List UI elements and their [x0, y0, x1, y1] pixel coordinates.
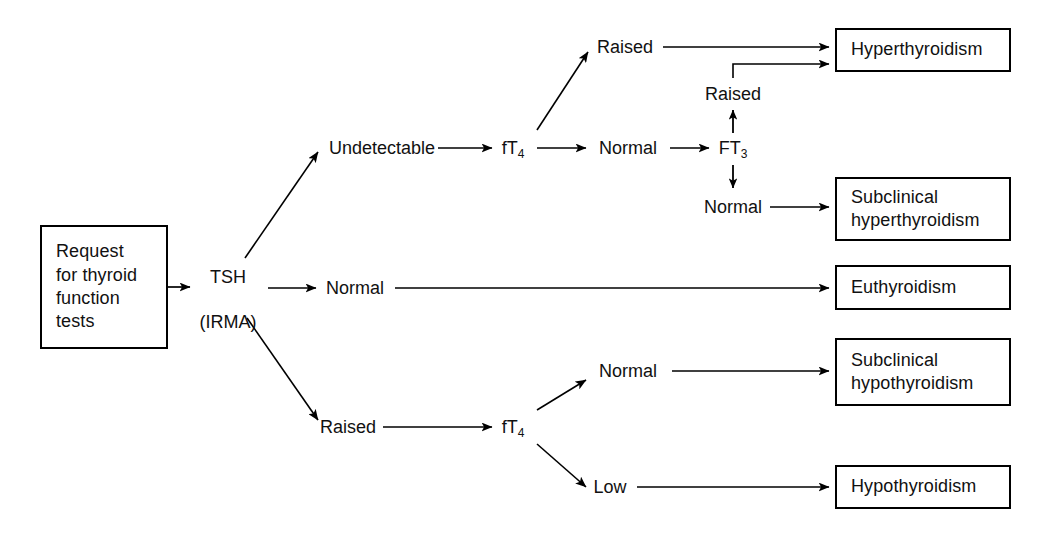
tsh-undetectable-label: Undetectable — [329, 138, 435, 158]
node-ft3[interactable]: FT3 — [719, 139, 748, 157]
outcome-hyperthyroidism-label: Hyperthyroidism — [851, 38, 983, 61]
edge-ft4-to-raised — [537, 52, 588, 130]
ft4-normal-label: Normal — [599, 138, 657, 158]
node-ft4-upper[interactable]: fT4 — [502, 139, 525, 157]
node-outcome-subclinical-hypothyroidism[interactable]: Subclinical hypothyroidism — [835, 338, 1011, 406]
tsh-raised-label: Raised — [320, 417, 376, 437]
request-box-label: Request for thyroid function tests — [56, 240, 137, 334]
node-ft3-raised[interactable]: Raised — [705, 85, 761, 103]
node-ft4-raised[interactable]: Raised — [597, 38, 653, 56]
ft3-raised-label: Raised — [705, 84, 761, 104]
node-outcome-euthyroidism[interactable]: Euthyroidism — [835, 265, 1011, 310]
node-tsh-undetectable[interactable]: Undetectable — [329, 139, 435, 157]
outcome-subclinical-hyperthyroidism-label: Subclinical hyperthyroidism — [851, 186, 980, 233]
ft4-lower-normal-label: Normal — [599, 361, 657, 381]
edge-ft3raised-to-hyperthyroidism — [733, 64, 829, 78]
node-ft4-normal[interactable]: Normal — [599, 139, 657, 157]
edge-ft4lower-to-low — [537, 444, 586, 487]
edge-ft4lower-to-normal — [537, 380, 586, 410]
flowchart-canvas: Request for thyroid function tests TSH (… — [0, 0, 1045, 539]
node-tsh-irma[interactable]: TSH (IRMA) — [200, 243, 257, 333]
ft4-lower-label: fT — [502, 417, 518, 437]
node-outcome-hypothyroidism[interactable]: Hypothyroidism — [835, 465, 1011, 509]
ft3-label: FT — [719, 138, 741, 158]
tsh-label-line1: TSH — [210, 267, 246, 287]
node-outcome-subclinical-hyperthyroidism[interactable]: Subclinical hyperthyroidism — [835, 177, 1011, 241]
ft4-upper-subscript: 4 — [518, 147, 525, 161]
outcome-euthyroidism-label: Euthyroidism — [851, 276, 956, 299]
node-ft4-lower-normal[interactable]: Normal — [599, 362, 657, 380]
tsh-label-line2: (IRMA) — [200, 312, 257, 332]
ft3-normal-label: Normal — [704, 197, 762, 217]
outcome-hypothyroidism-label: Hypothyroidism — [851, 475, 976, 498]
ft4-lower-low-label: Low — [593, 477, 626, 497]
node-tsh-normal[interactable]: Normal — [326, 279, 384, 297]
tsh-normal-label: Normal — [326, 278, 384, 298]
node-outcome-hyperthyroidism[interactable]: Hyperthyroidism — [835, 28, 1011, 72]
edge-tsh-to-raised — [247, 318, 318, 420]
node-ft4-lower[interactable]: fT4 — [502, 418, 525, 436]
node-ft4-lower-low[interactable]: Low — [593, 478, 626, 496]
ft4-raised-label: Raised — [597, 37, 653, 57]
ft4-upper-label: fT — [502, 138, 518, 158]
ft3-subscript: 3 — [741, 147, 748, 161]
node-tsh-raised[interactable]: Raised — [320, 418, 376, 436]
node-ft3-normal[interactable]: Normal — [704, 198, 762, 216]
node-request-thyroid-function-tests[interactable]: Request for thyroid function tests — [40, 225, 168, 349]
ft4-lower-subscript: 4 — [518, 426, 525, 440]
outcome-subclinical-hypothyroidism-label: Subclinical hypothyroidism — [851, 349, 973, 396]
